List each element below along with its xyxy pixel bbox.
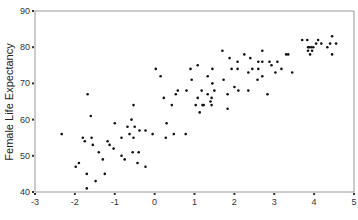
x-tick-label: 3 (272, 197, 277, 207)
data-point (177, 89, 180, 92)
data-point (226, 93, 229, 96)
data-point (331, 35, 334, 38)
data-point (128, 133, 131, 136)
data-point (106, 140, 109, 143)
x-tick-mark (114, 193, 116, 195)
y-tick-label: 80 (20, 42, 30, 52)
data-point (222, 79, 225, 82)
data-point (228, 57, 231, 60)
data-point (213, 89, 216, 92)
y-tick-mark (32, 46, 34, 48)
data-point (185, 89, 188, 92)
y-tick-label: 70 (20, 78, 30, 88)
x-tick-label: 5 (351, 197, 356, 207)
data-point (257, 68, 260, 71)
x-tick-label: 0 (152, 197, 157, 207)
data-point (155, 68, 158, 71)
data-point (86, 187, 89, 190)
data-point (165, 136, 168, 139)
data-point (189, 68, 192, 71)
data-point (276, 60, 279, 63)
data-point (226, 107, 229, 110)
x-tick-label: -1 (111, 197, 119, 207)
data-point (90, 136, 93, 139)
data-point (320, 42, 323, 45)
data-point (184, 133, 187, 136)
y-tick-label: 60 (20, 115, 30, 125)
x-tick-mark (34, 193, 36, 195)
data-point (206, 93, 209, 96)
data-point (209, 100, 212, 103)
data-point (315, 42, 318, 45)
data-point (247, 89, 250, 92)
data-point (60, 133, 63, 136)
data-point (196, 97, 199, 100)
plot-frame (35, 11, 354, 192)
data-point (190, 79, 193, 82)
data-point (287, 53, 290, 56)
data-point (108, 144, 111, 147)
scatter-chart: 405060708090 -3-2-1012345 Female Life Ex… (0, 0, 358, 220)
data-point (233, 86, 236, 89)
data-point (112, 147, 115, 150)
data-point (236, 68, 239, 71)
data-point (312, 46, 315, 49)
y-axis: 405060708090 (20, 6, 34, 197)
data-points (60, 35, 337, 190)
data-point (104, 173, 107, 176)
data-point (274, 71, 277, 74)
data-point (210, 97, 213, 100)
data-point (335, 42, 338, 45)
data-point (165, 122, 168, 125)
data-point (198, 111, 201, 114)
data-point (307, 50, 310, 53)
data-point (211, 68, 214, 71)
data-point (163, 97, 166, 100)
data-point (114, 122, 117, 125)
data-point (136, 162, 139, 165)
data-point (261, 75, 264, 78)
data-point (94, 180, 97, 183)
data-point (144, 165, 147, 168)
x-tick-label: -2 (71, 197, 79, 207)
data-point (102, 158, 105, 161)
data-point (90, 115, 93, 118)
data-point (137, 151, 140, 154)
data-point (210, 104, 213, 107)
data-point (243, 53, 246, 56)
data-point (132, 136, 135, 139)
x-tick-mark (194, 193, 196, 195)
y-tick-label: 50 (20, 151, 30, 161)
y-tick-mark (32, 191, 34, 193)
x-tick-mark (313, 193, 315, 195)
data-point (82, 136, 85, 139)
data-point (74, 165, 77, 168)
data-point (230, 68, 233, 71)
data-point (123, 158, 126, 161)
data-point (92, 144, 95, 147)
data-point (309, 53, 312, 56)
data-point (256, 79, 259, 82)
x-tick-mark (353, 193, 355, 195)
x-tick-mark (74, 193, 76, 195)
data-point (126, 126, 129, 129)
data-point (131, 151, 134, 154)
data-point (78, 162, 81, 165)
plot-border (35, 11, 354, 192)
data-point (331, 53, 334, 56)
x-tick-label: 1 (192, 197, 197, 207)
data-point (132, 104, 135, 107)
x-tick-mark (154, 193, 156, 195)
data-point (130, 118, 133, 121)
data-point (251, 68, 254, 71)
data-point (171, 104, 174, 107)
data-point (237, 89, 240, 92)
data-point (317, 39, 320, 42)
data-point (84, 140, 87, 143)
data-point (202, 104, 205, 107)
data-point (159, 75, 162, 78)
y-tick-label: 40 (20, 187, 30, 197)
data-point (194, 104, 197, 107)
data-point (236, 60, 239, 63)
data-point (291, 71, 294, 74)
